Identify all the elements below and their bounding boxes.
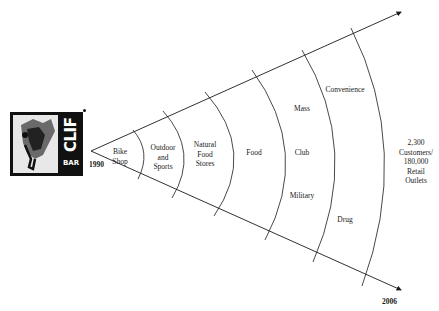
trademark-mark xyxy=(83,109,86,112)
segment-bike-shop: Bike Shop xyxy=(112,147,127,166)
start-year-label: 1990 xyxy=(89,160,104,169)
arc-divider-6 xyxy=(351,28,385,286)
logo-brand-bottom: BAR xyxy=(60,159,82,167)
lower-ray-arrow xyxy=(91,151,401,290)
climber-image xyxy=(13,115,58,173)
clif-bar-logo: CLIF BAR xyxy=(10,112,83,176)
segment-natural-food-stores: Natural Food Stores xyxy=(194,140,217,169)
logo-brand-top: CLIF xyxy=(60,114,82,156)
segment-military: Military xyxy=(290,191,315,201)
segment-outdoor-sports: Outdoor and Sports xyxy=(151,143,176,172)
segment-food: Food xyxy=(246,148,261,158)
segment-convenience: Convenience xyxy=(325,85,364,95)
segment-mass: Mass xyxy=(294,104,310,114)
end-year-label: 2006 xyxy=(382,297,397,306)
segment-club: Club xyxy=(295,148,310,158)
upper-ray-arrow xyxy=(91,12,401,151)
arc-divider-1 xyxy=(133,130,144,179)
result-outlets-label: 2,300 Customers/ 180,000 Retail Outlets xyxy=(399,138,433,186)
segment-drug: Drug xyxy=(337,215,352,225)
